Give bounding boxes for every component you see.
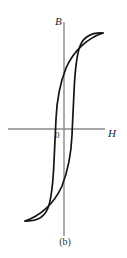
b-axis-label: B xyxy=(55,16,62,27)
axes-group xyxy=(8,22,105,236)
h-axis-label: H xyxy=(108,128,116,139)
figure-caption: (b) xyxy=(50,237,80,247)
origin-label: 0 xyxy=(55,130,60,140)
hysteresis-figure: B H 0 (b) xyxy=(0,0,127,258)
